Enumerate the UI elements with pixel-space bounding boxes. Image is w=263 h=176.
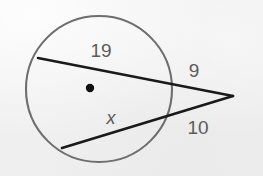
center-dot — [86, 84, 94, 92]
upper-secant-line — [38, 58, 233, 96]
geometry-figure: 19 9 x 10 — [0, 0, 263, 176]
label-external-upper: 9 — [189, 60, 200, 81]
label-chord-upper: 19 — [90, 40, 111, 61]
label-chord-lower: x — [106, 108, 117, 128]
circle-secant-diagram: 19 9 x 10 — [0, 0, 263, 176]
label-external-lower: 10 — [187, 117, 208, 138]
circle-outline — [26, 16, 172, 162]
